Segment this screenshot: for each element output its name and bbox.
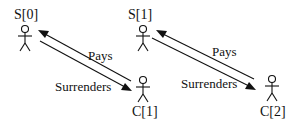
actor-label-c2: C[2] bbox=[260, 105, 286, 119]
relation-label-pays-2: Pays bbox=[212, 45, 237, 58]
actor-s0-icon bbox=[18, 26, 32, 52]
arrowhead-surrenders-1-icon bbox=[121, 83, 132, 91]
actor-s1-icon bbox=[136, 26, 150, 52]
actor-label-s0: S[0] bbox=[14, 8, 38, 22]
actor-label-s1: S[1] bbox=[128, 8, 152, 22]
relation-label-pays-1: Pays bbox=[88, 49, 113, 62]
pays-arrow-line-2 bbox=[163, 34, 254, 79]
actor-c2-icon bbox=[265, 76, 279, 102]
arrowhead-pays-1-icon bbox=[38, 30, 49, 38]
arrowhead-pays-2-icon bbox=[156, 30, 167, 38]
actor-c1-icon bbox=[136, 77, 150, 103]
arrowhead-surrenders-2-icon bbox=[245, 82, 256, 90]
relation-label-surrenders-2: Surrenders bbox=[181, 77, 237, 90]
actor-label-c1: C[1] bbox=[132, 105, 158, 119]
relation-label-surrenders-1: Surrenders bbox=[55, 80, 111, 93]
